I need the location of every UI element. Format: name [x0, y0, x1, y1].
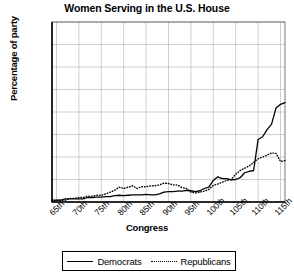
chart-container: Women Serving in the U.S. House Percenta… [0, 0, 294, 277]
legend-label-democrats: Democrats [97, 256, 141, 267]
chart-legend: Democrats Republicans [62, 251, 236, 271]
legend-swatch-democrats-icon [67, 261, 93, 262]
plot-area [52, 22, 285, 202]
legend-item-democrats: Democrats [67, 256, 141, 267]
chart-plot-svg [52, 22, 285, 202]
legend-item-republicans: Republicans [151, 256, 231, 267]
legend-label-republicans: Republicans [181, 256, 231, 267]
legend-swatch-republicans-icon [151, 261, 177, 262]
